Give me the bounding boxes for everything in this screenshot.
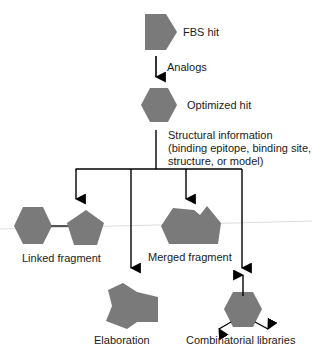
combinatorial-libraries-label: Combinatorial libraries (186, 334, 295, 347)
linked-fragment-shape-icon (14, 207, 104, 245)
workflow-diagram (0, 0, 312, 353)
fbs-hit-shape-icon (145, 14, 177, 50)
elaboration-shape-icon (106, 283, 158, 329)
optimized-hit-hexagon-icon (141, 88, 177, 122)
analogs-label: Analogs (167, 61, 207, 74)
optimized-hit-label: Optimized hit (187, 99, 251, 112)
linked-fragment-label: Linked fragment (22, 252, 101, 265)
merged-fragment-label: Merged fragment (148, 251, 232, 264)
structural-info-line1: Structural information (168, 129, 273, 142)
fbs-hit-label: FBS hit (183, 26, 219, 39)
merged-fragment-shape-icon (161, 206, 221, 244)
elaboration-label: Elaboration (94, 334, 150, 347)
structural-info-line2: (binding epitope, binding site, (168, 142, 311, 155)
combinatorial-libraries-shape-icon (219, 275, 268, 329)
structural-info-line3: structure, or model) (168, 155, 263, 168)
